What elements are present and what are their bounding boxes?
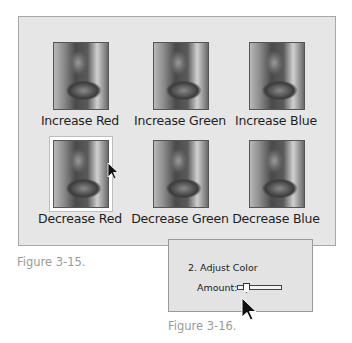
arrow-cursor-icon	[240, 297, 260, 323]
increase-blue-label: Increase Blue	[221, 113, 331, 128]
increase-green-label: Increase Green	[125, 113, 235, 128]
amount-label: Amount:	[197, 282, 238, 293]
figure-3-16-caption: Figure 3-16.	[168, 319, 237, 333]
decrease-green-label: Decrease Green	[125, 211, 235, 226]
decrease-green-thumbnail[interactable]	[153, 140, 209, 208]
decrease-red-label: Decrease Red	[25, 211, 135, 226]
decrease-blue-label: Decrease Blue	[221, 211, 331, 226]
increase-green-thumbnail[interactable]	[153, 42, 209, 110]
decrease-blue-thumbnail[interactable]	[249, 140, 305, 208]
increase-blue-thumbnail[interactable]	[249, 42, 305, 110]
decrease-red-thumbnail[interactable]	[53, 140, 109, 208]
amount-slider-thumb[interactable]	[243, 283, 250, 293]
increase-red-label: Increase Red	[25, 113, 135, 128]
figure-3-15-caption: Figure 3-15.	[17, 255, 86, 269]
increase-red-thumbnail[interactable]	[53, 42, 109, 110]
step-title: 2. Adjust Color	[188, 262, 258, 273]
color-variations-panel: Increase Red Increase Green Increase Blu…	[18, 16, 336, 246]
arrow-cursor-icon	[107, 162, 121, 182]
